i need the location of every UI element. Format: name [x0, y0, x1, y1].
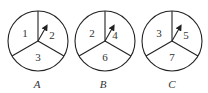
spinner-b: 2 4 6 [75, 11, 135, 71]
spinner-label: B [100, 78, 107, 90]
sector-label: 3 [35, 51, 41, 63]
spinner-label: A [33, 78, 41, 90]
sector-label: 2 [49, 29, 55, 41]
sector-divider [79, 41, 105, 56]
sector-divider [12, 41, 38, 56]
sector-label: 7 [169, 51, 175, 63]
pointer-arrow-icon [38, 27, 46, 41]
pointer-arrow-icon [172, 27, 180, 41]
sector-label: 4 [112, 29, 118, 41]
sector-divider [146, 41, 172, 56]
sector-label: 2 [89, 27, 95, 39]
sector-label: 6 [102, 51, 108, 63]
sector-divider [172, 41, 198, 56]
sector-label: 5 [183, 29, 189, 41]
spinner-a: 1 2 3 [8, 11, 68, 71]
sector-divider [105, 41, 131, 56]
spinner-label: C [168, 78, 176, 90]
spinner-diagram: 1 2 3 A 2 4 6 B 3 5 7 C [0, 0, 208, 93]
sector-label: 1 [22, 27, 28, 39]
sector-divider [38, 41, 64, 56]
sector-label: 3 [156, 27, 162, 39]
spinner-c: 3 5 7 [142, 11, 202, 71]
